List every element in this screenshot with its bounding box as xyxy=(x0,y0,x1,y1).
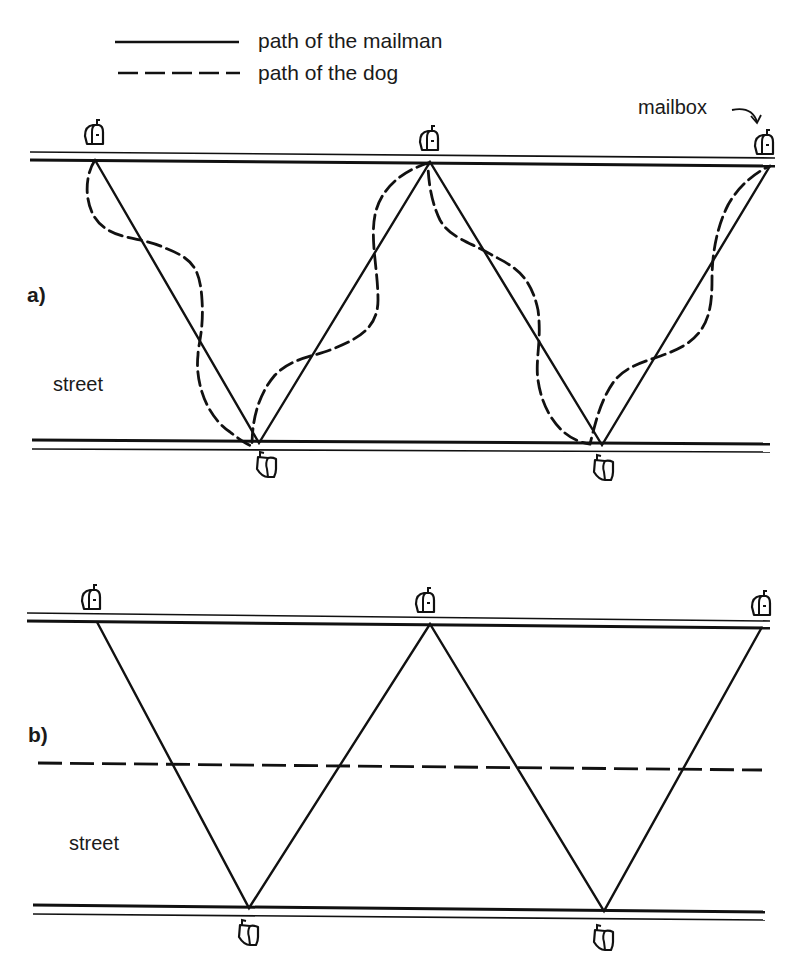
dog-path xyxy=(87,160,770,446)
mailbox-icon xyxy=(82,585,100,609)
street-label-a: street xyxy=(53,373,103,396)
street-bottom-edge xyxy=(33,905,765,920)
legend-label-mailman: path of the mailman xyxy=(258,29,442,53)
panel-b xyxy=(27,585,770,950)
mailbox-icon xyxy=(416,588,434,612)
mailbox-icon xyxy=(420,126,438,150)
mailbox-icon xyxy=(257,452,276,477)
mailbox-icon xyxy=(752,591,770,615)
street-label-b: street xyxy=(69,832,119,855)
mailbox-icon xyxy=(594,925,613,950)
panel-label-b: b) xyxy=(28,723,48,747)
mailbox-arrow-icon xyxy=(732,109,757,122)
mailbox-annotation: mailbox xyxy=(638,96,707,119)
mailbox-icon xyxy=(239,920,258,945)
diagram-canvas xyxy=(0,0,788,969)
street-bottom-edge xyxy=(32,440,770,452)
panel-label-a: a) xyxy=(27,283,46,307)
mailbox-icon xyxy=(755,130,773,154)
street-top-edge xyxy=(27,613,770,628)
mailbox-icon xyxy=(594,455,613,480)
street-top-edge xyxy=(30,152,775,166)
panel-a xyxy=(30,120,775,480)
legend-label-dog: path of the dog xyxy=(258,61,398,85)
dog-path xyxy=(38,763,762,770)
mailbox-icon xyxy=(85,120,103,144)
legend xyxy=(115,42,240,73)
